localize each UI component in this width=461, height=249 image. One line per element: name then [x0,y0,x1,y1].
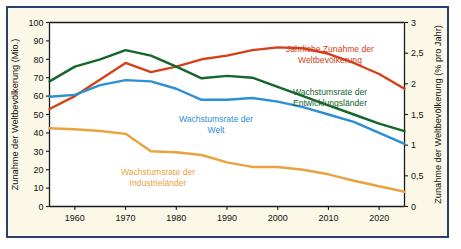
ytick-label-right: 2 [411,79,416,89]
ytick-label-right: 2,5 [411,48,424,58]
ytick-label-left: 10 [33,183,43,193]
figure-container: 010203040506070809010000,511,522,5319601… [0,0,461,249]
xtick-label: 2010 [318,213,338,223]
ytick-label-left: 0 [38,202,43,212]
y-axis-title-left: Zunahme der Weltbevölkerung (Mio.) [10,39,20,191]
series-annotation: Jährliche Zunahme derWeltbevölkerung [286,44,374,65]
series-annotation: Wachstumsrate derIndustrieländer [121,167,195,188]
ytick-label-left: 90 [33,36,43,46]
ytick-label-left: 100 [28,18,43,28]
ytick-label-left: 30 [33,147,43,157]
ytick-label-left: 50 [33,110,43,120]
ytick-label-right: 1,5 [411,110,424,120]
xtick-label: 1970 [116,213,136,223]
series-annotation: Wachstumsrate derEntwicklungsländer [293,87,367,108]
xtick-label: 1960 [65,213,85,223]
xtick-label: 1990 [217,213,237,223]
ytick-label-right: 3 [411,18,416,28]
ytick-label-right: 1 [411,140,416,150]
ytick-label-left: 60 [33,91,43,101]
ytick-label-right: 0 [411,202,416,212]
ytick-label-left: 70 [33,73,43,83]
xtick-label: 1980 [166,213,186,223]
ytick-label-left: 80 [33,55,43,65]
ytick-label-left: 40 [33,128,43,138]
ytick-label-left: 20 [33,165,43,175]
xtick-label: 2020 [369,213,389,223]
xtick-label: 2000 [268,213,288,223]
ytick-label-right: 0,5 [411,171,424,181]
y-axis-title-right: Zunahme der Weltbevölkerung (% pro Jahr) [433,25,443,204]
chart-canvas: 010203040506070809010000,511,522,5319601… [0,0,461,249]
